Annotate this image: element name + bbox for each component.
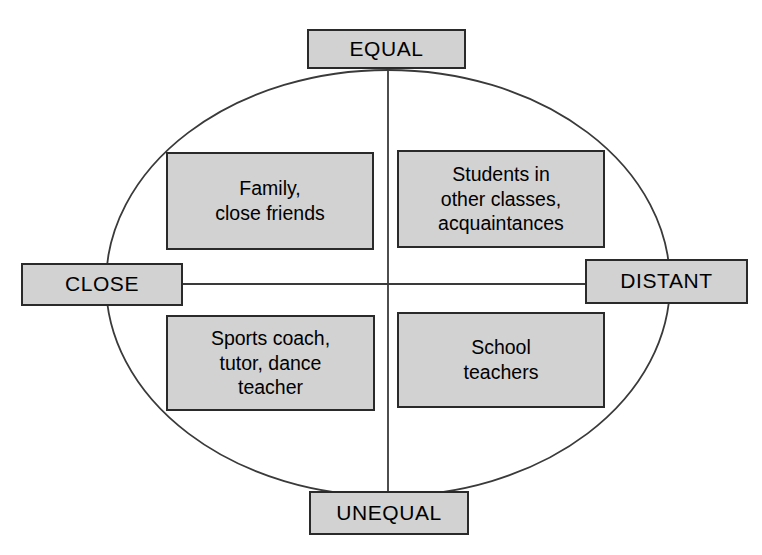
axis-endpoint-distant[interactable]: DISTANT — [585, 259, 748, 304]
quadrant-box-unequal-distant[interactable]: School teachers — [397, 312, 605, 408]
axis-endpoint-unequal[interactable]: UNEQUAL — [309, 491, 469, 535]
quadrant-box-equal-distant[interactable]: Students in other classes, acquaintances — [397, 150, 605, 248]
axis-endpoint-close[interactable]: CLOSE — [21, 263, 183, 306]
relationship-quadrant-diagram: EQUAL DISTANT UNEQUAL CLOSE Family, clos… — [0, 0, 762, 555]
quadrant-box-unequal-close[interactable]: Sports coach, tutor, dance teacher — [166, 315, 375, 411]
quadrant-box-equal-close[interactable]: Family, close friends — [166, 152, 374, 250]
axis-endpoint-equal[interactable]: EQUAL — [307, 29, 466, 69]
